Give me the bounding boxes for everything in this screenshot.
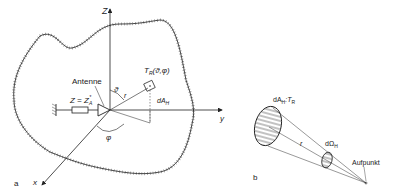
enclosure-hatching — [14, 20, 194, 174]
enclosure-outline — [14, 20, 194, 174]
x-axis-label: x — [32, 178, 38, 187]
area-temp-label: dAH:TR — [273, 96, 295, 105]
panel-label-a: a — [14, 179, 19, 188]
impedance-label: Z = ZA* — [69, 94, 93, 106]
antenna-label: Antenne — [72, 77, 102, 86]
area-element-ellipse — [250, 103, 285, 148]
figure-a: Z y x a Z = ZA* Antenne r TR(ϑ,φ) dAH ϑ — [14, 6, 225, 188]
r-label: r — [124, 92, 127, 99]
z-axis-label: Z — [101, 6, 108, 16]
aufpunkt-label: Aufpunkt — [352, 159, 380, 167]
panel-label-b: b — [253, 173, 258, 182]
solid-angle-label: dΩH — [325, 140, 338, 149]
theta-label: ϑ — [114, 85, 119, 94]
figure-b: dAH:TR dΩH r Aufpunkt b — [250, 96, 379, 184]
phi-label: φ — [106, 133, 111, 142]
area-label: dAH — [157, 97, 170, 106]
r-label-b: r — [300, 140, 303, 147]
temperature-label: TR(ϑ,φ) — [144, 66, 170, 76]
antenna-noise-diagram: Z y x a Z = ZA* Antenne r TR(ϑ,φ) dAH ϑ — [0, 0, 393, 196]
impedance-resistor — [72, 107, 88, 113]
phi-arc — [97, 124, 124, 132]
x-axis — [42, 110, 110, 185]
y-axis-label: y — [219, 114, 225, 123]
